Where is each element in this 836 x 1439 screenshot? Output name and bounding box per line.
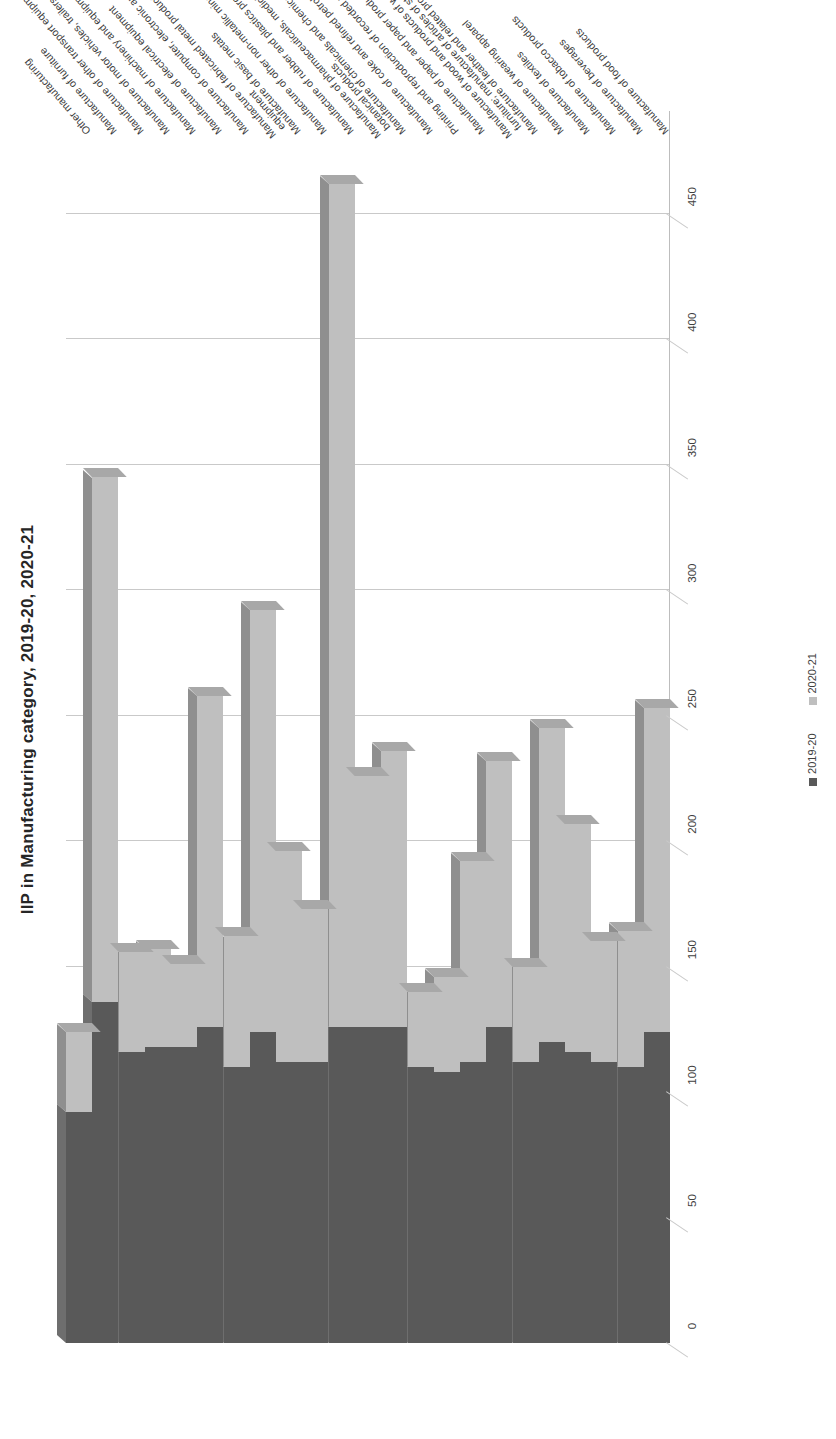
- bar-segment-2019-20[interactable]: [302, 1062, 328, 1343]
- bar-segment-2020-21[interactable]: [460, 861, 486, 1062]
- legend-item[interactable]: 2019-20: [806, 734, 818, 786]
- x-tick-label: 200: [686, 815, 698, 834]
- bar-segment-2020-21[interactable]: [355, 776, 381, 1027]
- bar-group[interactable]: [644, 111, 670, 1343]
- bar-segment-2019-20[interactable]: [250, 1032, 276, 1343]
- x-tick-label: 300: [686, 564, 698, 583]
- bar-group[interactable]: [145, 111, 171, 1343]
- rotated-figure-container: IIP in Manufacturing category, 2019-20, …: [0, 0, 836, 1439]
- chart-legend: 2019-202020-21: [806, 0, 818, 1439]
- bar-segment-2019-20[interactable]: [329, 1027, 355, 1343]
- bar-segment-2020-21[interactable]: [539, 728, 565, 1042]
- bar-segment-2019-20[interactable]: [408, 1067, 434, 1343]
- bar-group[interactable]: [434, 111, 460, 1343]
- x-tick-label: 100: [686, 1065, 698, 1084]
- bar-group[interactable]: [66, 111, 92, 1343]
- x-tick-label: 250: [686, 689, 698, 708]
- bar-group[interactable]: [119, 111, 145, 1343]
- bar-segment-2020-21[interactable]: [302, 909, 328, 1062]
- bar-segment-2020-21[interactable]: [276, 851, 302, 1062]
- bar-side-face: [110, 943, 154, 952]
- bar-side-face: [320, 175, 364, 184]
- bar-segment-2019-20[interactable]: [92, 1002, 118, 1343]
- x-tick-label: 50: [686, 1194, 698, 1207]
- bar-side-face: [346, 767, 390, 776]
- bar-group[interactable]: [197, 111, 223, 1343]
- bar-group[interactable]: [329, 111, 355, 1343]
- bar-group[interactable]: [618, 111, 644, 1343]
- bar-group[interactable]: [486, 111, 512, 1343]
- chart-title: IIP in Manufacturing category, 2019-20, …: [18, 0, 38, 1439]
- bar-segment-2019-20[interactable]: [434, 1072, 460, 1343]
- bar-side-face: [162, 955, 206, 964]
- bar-segment-2020-21[interactable]: [224, 936, 250, 1066]
- bar-group[interactable]: [250, 111, 276, 1343]
- bar-segment-2019-20[interactable]: [565, 1052, 591, 1343]
- bar-group[interactable]: [302, 111, 328, 1343]
- bar-group[interactable]: [513, 111, 539, 1343]
- bar-segment-2019-20[interactable]: [644, 1032, 670, 1343]
- x-tick-label: 450: [686, 187, 698, 206]
- bar-segment-2020-21[interactable]: [66, 1032, 92, 1112]
- bar-segment-2019-20[interactable]: [513, 1062, 539, 1343]
- x-axis-ticks: 050100150200250300350400450: [676, 111, 716, 1343]
- bar-segment-2020-21[interactable]: [250, 610, 276, 1032]
- x-tick-label: 350: [686, 438, 698, 457]
- bar-segment-2019-20[interactable]: [355, 1027, 381, 1343]
- bar-segment-2020-21[interactable]: [119, 952, 145, 1052]
- bar-segment-2020-21[interactable]: [171, 964, 197, 1047]
- bar-segment-2019-20[interactable]: [460, 1062, 486, 1343]
- bar-segment-2020-21[interactable]: [329, 184, 355, 1027]
- plot-area: [66, 111, 670, 1343]
- legend-label: 2020-21: [806, 653, 818, 693]
- bar-segment-2019-20[interactable]: [145, 1047, 171, 1343]
- bar-segment-2019-20[interactable]: [171, 1047, 197, 1343]
- legend-swatch: [809, 778, 817, 786]
- x-tick-label: 150: [686, 940, 698, 959]
- bar-side-face: [582, 932, 626, 941]
- legend-item[interactable]: 2020-21: [806, 653, 818, 705]
- bar-segment-2019-20[interactable]: [276, 1062, 302, 1343]
- bar-segment-2020-21[interactable]: [486, 761, 512, 1027]
- bar-group[interactable]: [276, 111, 302, 1343]
- bar-segment-2020-21[interactable]: [92, 477, 118, 1001]
- bar-segment-2019-20[interactable]: [539, 1042, 565, 1343]
- chart-figure: IIP in Manufacturing category, 2019-20, …: [0, 0, 836, 1439]
- bar-group[interactable]: [381, 111, 407, 1343]
- bar-side-face: [504, 958, 548, 967]
- bar-segment-2019-20[interactable]: [618, 1067, 644, 1343]
- bar-side-face: [267, 842, 311, 851]
- bar-group[interactable]: [92, 111, 118, 1343]
- bar-segment-2019-20[interactable]: [381, 1027, 407, 1343]
- tick-leader: [666, 1342, 688, 1357]
- bar-segment-2019-20[interactable]: [197, 1027, 223, 1343]
- bar-group[interactable]: [224, 111, 250, 1343]
- bar-segment-2019-20[interactable]: [66, 1112, 92, 1343]
- legend-label: 2019-20: [806, 734, 818, 774]
- bar-segment-2019-20[interactable]: [486, 1027, 512, 1343]
- bar-segment-2019-20[interactable]: [119, 1052, 145, 1343]
- bar-segment-2020-21[interactable]: [591, 942, 617, 1062]
- bar-group[interactable]: [591, 111, 617, 1343]
- bar-segment-2020-21[interactable]: [513, 967, 539, 1062]
- bar-group[interactable]: [408, 111, 434, 1343]
- bar-segment-2020-21[interactable]: [197, 696, 223, 1027]
- bar-group[interactable]: [171, 111, 197, 1343]
- bar-group[interactable]: [355, 111, 381, 1343]
- bar-segment-2020-21[interactable]: [618, 931, 644, 1067]
- bar-segment-2020-21[interactable]: [408, 992, 434, 1067]
- x-tick-label: 400: [686, 313, 698, 332]
- x-tick-label: 0: [686, 1323, 698, 1329]
- bar-segment-2020-21[interactable]: [145, 949, 171, 1047]
- bar-segment-2020-21[interactable]: [644, 708, 670, 1032]
- bar-segment-2019-20[interactable]: [224, 1067, 250, 1343]
- bar-segment-2019-20[interactable]: [591, 1062, 617, 1343]
- legend-swatch: [809, 698, 817, 706]
- bar-group[interactable]: [460, 111, 486, 1343]
- bar-side-face: [451, 852, 495, 861]
